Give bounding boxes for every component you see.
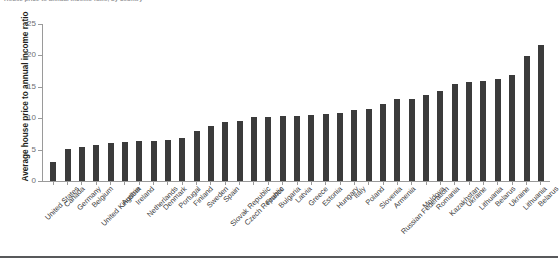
x-label-slot: Russian Federation [405,183,419,257]
y-axis-tick [38,24,42,25]
y-axis-tick-label: 25 [18,20,36,28]
x-label-slot: Austria [118,183,132,257]
x-label-slot: Latvia [290,183,304,257]
bar-slot [476,24,490,181]
bar[interactable] [265,117,271,181]
bar-slot [448,24,462,181]
x-label-slot: Belarus [535,183,549,257]
bar-slot [146,24,160,181]
bar[interactable] [366,109,372,181]
bar[interactable] [65,149,71,181]
bar-slot [132,24,146,181]
bar-slot [534,24,548,181]
x-label-slot: Moldova [420,183,434,257]
bar-slot [218,24,232,181]
y-axis-tick [38,150,42,151]
x-label-slot: France [262,183,276,257]
y-axis-tick-label: 0 [18,177,36,185]
x-label-slot: Ireland [132,183,146,257]
bar-slot [89,24,103,181]
x-label-slot: Sweden [204,183,218,257]
bar-slot [519,24,533,181]
bar[interactable] [380,104,386,181]
bar-slot [304,24,318,181]
bar[interactable] [495,79,501,181]
bar-slot [491,24,505,181]
bar[interactable] [524,56,530,181]
x-label-slot: Portugal [175,183,189,257]
bar-slot [333,24,347,181]
bar-slot [347,24,361,181]
bar[interactable] [466,82,472,181]
bar-slot [376,24,390,181]
bar[interactable] [280,116,286,181]
bar-slot [276,24,290,181]
bar-slot [390,24,404,181]
bar[interactable] [323,114,329,181]
bar[interactable] [151,141,157,181]
chart-title: House price to annual income ratio, by c… [4,0,143,2]
bar-slot [247,24,261,181]
bar-slot [362,24,376,181]
x-axis-tick-label: Belarus [537,185,560,208]
bar-slot [175,24,189,181]
x-label-slot: Belarus [492,183,506,257]
bar[interactable] [222,122,228,181]
bar[interactable] [165,140,171,181]
bar[interactable] [194,131,200,181]
bar[interactable] [251,117,257,181]
x-label-slot: Lithuania [520,183,534,257]
y-axis-tick [38,55,42,56]
y-axis-tick-label: 5 [18,146,36,154]
x-label-slot: Lithuania [477,183,491,257]
bar-slot [319,24,333,181]
bar-slot [46,24,60,181]
bar[interactable] [208,126,214,181]
bar[interactable] [122,142,128,181]
x-label-slot: Romania [434,183,448,257]
bar[interactable] [437,91,443,181]
y-axis-tick [38,118,42,119]
bar-group [43,24,550,181]
bar[interactable] [452,84,458,181]
bar-slot [118,24,132,181]
x-label-slot: Hungary [334,183,348,257]
bar[interactable] [308,115,314,181]
bar[interactable] [108,143,114,181]
y-axis-tick-label: 15 [18,83,36,91]
x-label-slot: Greece [305,183,319,257]
x-label-slot: Denmark [161,183,175,257]
y-axis-tick [38,181,42,182]
bar-slot [419,24,433,181]
bar[interactable] [509,75,515,181]
y-axis-tick-label: 20 [18,51,36,59]
bar-slot [433,24,447,181]
bar[interactable] [179,138,185,181]
bar[interactable] [237,121,243,181]
x-label-slot: Armenia [391,183,405,257]
bar[interactable] [337,113,343,181]
bar[interactable] [423,95,429,181]
x-label-slot: United States [46,183,60,257]
y-axis-tick [38,87,42,88]
bar[interactable] [50,162,56,181]
bar[interactable] [93,145,99,181]
bar-slot [462,24,476,181]
bar[interactable] [79,147,85,181]
x-label-slot: Ukraine [463,183,477,257]
bar[interactable] [136,141,142,181]
x-tick-label-group: United StatesCanadaGermanyBelgiumUnited … [43,183,551,257]
bar[interactable] [480,81,486,181]
bar-slot [261,24,275,181]
bar-slot [505,24,519,181]
y-axis-title: Average house price to annual income rat… [21,4,30,190]
bar[interactable] [409,99,415,181]
x-label-slot: Poland [362,183,376,257]
bar[interactable] [394,99,400,181]
bar-slot [290,24,304,181]
bar[interactable] [351,110,357,181]
bar[interactable] [538,45,544,181]
bar[interactable] [294,116,300,181]
x-label-slot: Finland [190,183,204,257]
